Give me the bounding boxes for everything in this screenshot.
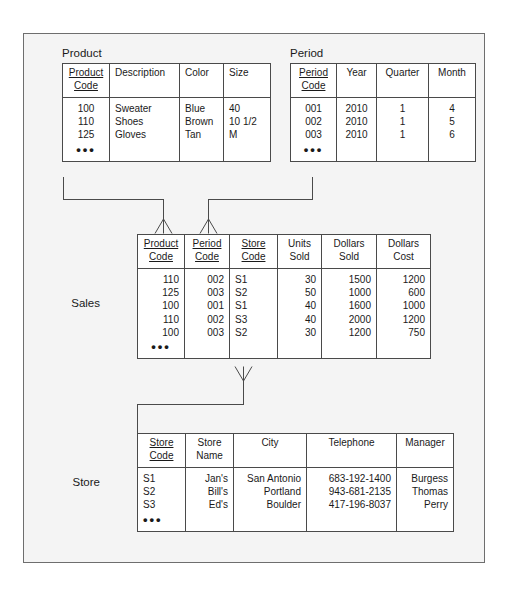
column-header-period-code: Period Code [185, 235, 230, 269]
ellipsis-marker: ••• [296, 142, 331, 156]
table-header-row: Product Code Period Code Store Code Unit… [138, 235, 431, 269]
cell-store-code: S1 S2 S1 S3 S2 [230, 269, 278, 359]
column-header-units-sold: Units Sold [278, 235, 322, 269]
table-sales: Product Code Period Code Store Code Unit… [137, 234, 431, 359]
column-header-manager: Manager [397, 434, 454, 468]
cell-store-code: S1 S2 S3 ••• [138, 468, 186, 532]
cell-telephone: 683-192-1400 943-681-2135 417-196-8037 [307, 468, 397, 532]
ellipsis-marker: ••• [143, 339, 179, 353]
table-header-row: Product Code Description Color Size [63, 64, 271, 98]
table-row: 110 125 100 110 100 ••• 002 003 001 [138, 269, 431, 359]
table-row: 001 002 003 ••• 2010 2010 2010 [291, 98, 476, 162]
column-header-color: Color [180, 64, 224, 98]
column-header-store-name: Store Name [186, 434, 234, 468]
column-header-telephone: Telephone [307, 434, 397, 468]
cell-manager: Burgess Thomas Perry [397, 468, 454, 532]
column-header-product-code: Product Code [138, 235, 185, 269]
ellipsis-marker: ••• [143, 512, 180, 526]
table-product: Product Code Description Color Size [62, 63, 271, 162]
entity-product: Product Product Code Description Color [62, 47, 271, 162]
cell-city: San Antonio Portland Boulder [234, 468, 307, 532]
cell-size: 40 10 1/2 M [224, 98, 271, 162]
cell-product-code: 110 125 100 110 100 ••• [138, 269, 185, 359]
ellipsis-marker: ••• [68, 142, 104, 156]
table-header-row: Store Code Store Name City Telephone Man [138, 434, 454, 468]
cell-year: 2010 2010 2010 [337, 98, 377, 162]
column-header-year: Year [337, 64, 377, 98]
entity-store: Store Code Store Name City Telephone Man [137, 433, 454, 532]
column-header-store-code: Store Code [138, 434, 186, 468]
cell-period-code: 001 002 003 ••• [291, 98, 337, 162]
column-header-city: City [234, 434, 307, 468]
cell-product-code: 100 110 125 ••• [63, 98, 110, 162]
column-header-period-code: Period Code [291, 64, 337, 98]
cell-units-sold: 30 50 40 40 30 [278, 269, 322, 359]
cell-period-code: 002 003 001 002 003 [185, 269, 230, 359]
cell-dollars-cost: 1200 600 1000 1200 750 [377, 269, 431, 359]
table-row: 100 110 125 ••• Sweater Shoes Gloves [63, 98, 271, 162]
column-header-size: Size [224, 64, 271, 98]
column-header-dollars-cost: Dollars Cost [377, 235, 431, 269]
cell-store-name: Jan's Bill's Ed's [186, 468, 234, 532]
entity-store-title: Store [40, 476, 100, 488]
cell-quarter: 1 1 1 [377, 98, 429, 162]
cell-color: Blue Brown Tan [180, 98, 224, 162]
column-header-dollars-sold: Dollars Sold [322, 235, 377, 269]
diagram-canvas: Product Product Code Description Color [0, 0, 510, 594]
cell-month: 4 5 6 [429, 98, 476, 162]
cell-description: Sweater Shoes Gloves [110, 98, 180, 162]
entity-product-title: Product [62, 47, 271, 60]
table-period: Period Code Year Quarter Month [290, 63, 476, 162]
table-store: Store Code Store Name City Telephone Man [137, 433, 454, 532]
table-row: S1 S2 S3 ••• Jan's Bill's Ed's [138, 468, 454, 532]
column-header-description: Description [110, 64, 180, 98]
table-header-row: Period Code Year Quarter Month [291, 64, 476, 98]
entity-period: Period Period Code Year Quarter [290, 47, 476, 162]
cell-dollars-sold: 1500 1000 1600 2000 1200 [322, 269, 377, 359]
column-header-product-code: Product Code [63, 64, 110, 98]
column-header-quarter: Quarter [377, 64, 429, 98]
column-header-month: Month [429, 64, 476, 98]
entity-sales: Product Code Period Code Store Code Unit… [137, 234, 431, 359]
entity-period-title: Period [290, 47, 476, 60]
entity-sales-title: Sales [40, 297, 100, 309]
column-header-store-code: Store Code [230, 235, 278, 269]
